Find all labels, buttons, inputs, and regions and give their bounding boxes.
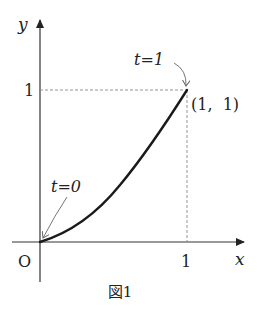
x-tick-1: 1 <box>181 252 191 271</box>
end-arrow-icon <box>174 63 186 86</box>
y-axis-label: y <box>17 14 28 34</box>
y-tick-1: 1 <box>24 81 34 100</box>
t0-label: t=0 <box>51 177 81 196</box>
figure-canvas: y x O 1 1 t=0 t=1 (1, 1) <box>0 0 257 313</box>
parametric-curve <box>40 90 187 242</box>
figure-caption: 図1 <box>0 280 240 301</box>
t1-label: t=1 <box>134 50 164 69</box>
x-axis-label: x <box>235 249 245 269</box>
point-label: (1, 1) <box>191 95 239 114</box>
origin-label: O <box>18 252 31 271</box>
